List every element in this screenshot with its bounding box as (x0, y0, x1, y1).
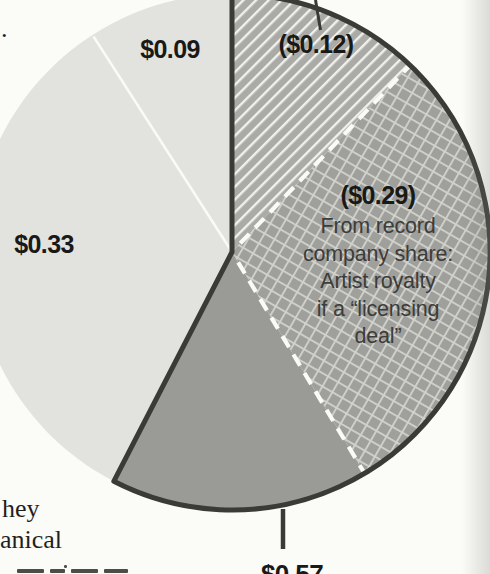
cut-text-fragment: anical (0, 527, 62, 553)
cut-text-fragment: . (1, 16, 8, 42)
clipped-text-remnant (50, 569, 65, 573)
annotation-line: if a “licensing (303, 296, 453, 324)
annotation-line: company share: (303, 241, 453, 269)
slice-annotation: From record company share: Artist royalt… (303, 213, 453, 351)
clipped-text-remnant (104, 569, 128, 573)
annotation-line: Artist royalty (303, 268, 453, 296)
clipped-text-remnant (71, 569, 98, 573)
slice-label-033: $0.33 (14, 232, 74, 257)
cut-text-fragment: hey (2, 496, 40, 522)
scanned-book-page: $0.09 ($0.12) $0.33 ($0.29) $0.57 From r… (0, 0, 490, 574)
clipped-text-remnant (64, 565, 67, 568)
annotation-line: deal” (303, 323, 453, 351)
slice-label-012: ($0.12) (278, 32, 353, 57)
annotation-line: From record (303, 213, 453, 241)
slice-label-029: ($0.29) (340, 183, 415, 208)
group-label-057: $0.57 (261, 561, 323, 574)
clipped-text-remnant (17, 569, 44, 573)
slice-label-009: $0.09 (140, 37, 200, 62)
